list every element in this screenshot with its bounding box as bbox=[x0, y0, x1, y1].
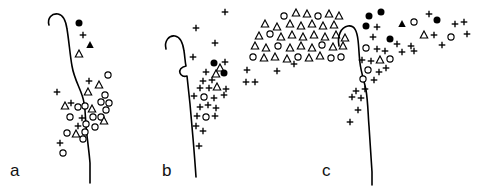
marker-plus bbox=[212, 113, 219, 120]
marker-open-triangle bbox=[95, 81, 102, 88]
marker-open-triangle bbox=[260, 54, 267, 61]
marker-open-triangle bbox=[308, 20, 315, 27]
marker-plus bbox=[464, 31, 471, 38]
marker-plus bbox=[376, 69, 383, 76]
marker-open-circle bbox=[319, 42, 325, 48]
marker-filled-circle bbox=[387, 36, 394, 43]
marker-open-triangle bbox=[271, 53, 278, 60]
marker-open-triangle bbox=[84, 88, 91, 95]
marker-open-circle bbox=[92, 124, 98, 130]
marker-plus bbox=[197, 85, 204, 92]
marker-plus bbox=[382, 48, 389, 55]
marker-plus bbox=[374, 46, 381, 53]
marker-plus bbox=[353, 88, 360, 95]
marker-open-triangle bbox=[273, 23, 280, 30]
marker-open-circle bbox=[363, 45, 369, 51]
marker-open-circle bbox=[83, 121, 89, 127]
marker-open-circle bbox=[387, 56, 393, 62]
marker-open-circle bbox=[201, 94, 207, 100]
marker-open-triangle bbox=[321, 33, 328, 40]
marker-open-circle bbox=[250, 54, 256, 60]
marker-plus bbox=[196, 143, 203, 150]
marker-plus bbox=[362, 86, 369, 93]
marker-plus bbox=[431, 32, 438, 39]
marker-filled-triangle bbox=[86, 41, 93, 48]
marker-plus bbox=[211, 95, 218, 102]
marker-plus bbox=[371, 77, 378, 84]
marker-open-triangle bbox=[262, 44, 269, 51]
panel-label-a: a bbox=[10, 161, 20, 180]
marker-open-triangle bbox=[286, 44, 293, 51]
marker-open-circle bbox=[64, 130, 70, 136]
marker-open-circle bbox=[82, 129, 88, 135]
marker-open-circle bbox=[75, 104, 81, 110]
marker-open-triangle bbox=[213, 83, 220, 90]
marker-open-circle bbox=[80, 136, 86, 142]
marker-open-triangle bbox=[319, 22, 326, 29]
marker-open-circle bbox=[102, 92, 108, 98]
marker-plus bbox=[222, 59, 229, 66]
scatter-points-a bbox=[54, 20, 112, 157]
marker-plus bbox=[394, 41, 401, 48]
panel-b: b bbox=[162, 9, 349, 180]
marker-open-triangle bbox=[420, 31, 427, 38]
marker-plus bbox=[209, 77, 216, 84]
marker-open-triangle bbox=[299, 33, 306, 40]
marker-plus bbox=[206, 85, 213, 92]
marker-open-circle bbox=[82, 103, 88, 109]
marker-plus bbox=[274, 68, 281, 75]
marker-plus bbox=[213, 105, 220, 112]
marker-open-triangle bbox=[376, 56, 383, 63]
scatter-points-c bbox=[347, 9, 471, 126]
marker-plus bbox=[191, 93, 198, 100]
marker-plus bbox=[355, 107, 362, 114]
marker-open-triangle bbox=[61, 102, 68, 109]
marker-filled-circle bbox=[76, 20, 83, 27]
marker-open-triangle bbox=[308, 44, 315, 51]
marker-plus bbox=[244, 67, 251, 74]
marker-plus bbox=[79, 115, 86, 122]
scatter-points-b bbox=[190, 9, 349, 150]
marker-plus bbox=[194, 113, 201, 120]
marker-open-circle bbox=[203, 114, 209, 120]
marker-plus bbox=[68, 100, 75, 107]
marker-plus bbox=[452, 21, 459, 28]
marker-open-triangle bbox=[310, 31, 317, 38]
marker-open-triangle bbox=[292, 9, 299, 16]
marker-open-circle bbox=[365, 67, 371, 73]
marker-plus bbox=[439, 42, 446, 49]
marker-open-triangle bbox=[303, 10, 310, 17]
marker-filled-circle bbox=[221, 70, 228, 77]
marker-plus bbox=[368, 58, 375, 65]
panel-a: a bbox=[10, 14, 112, 183]
marker-plus bbox=[75, 123, 82, 130]
panel-label-b: b bbox=[162, 161, 171, 180]
marker-plus bbox=[370, 34, 377, 41]
marker-open-triangle bbox=[277, 33, 284, 40]
marker-plus bbox=[252, 79, 259, 86]
marker-open-circle bbox=[360, 76, 366, 82]
marker-plus bbox=[197, 104, 204, 111]
marker-plus bbox=[349, 94, 356, 101]
marker-plus bbox=[223, 86, 230, 93]
marker-open-circle bbox=[338, 54, 344, 60]
marker-open-triangle bbox=[339, 42, 346, 49]
marker-open-circle bbox=[315, 13, 321, 19]
marker-open-triangle bbox=[297, 22, 304, 29]
marker-open-circle bbox=[267, 31, 273, 37]
marker-plus bbox=[291, 61, 298, 68]
marker-open-triangle bbox=[305, 54, 312, 61]
marker-open-circle bbox=[106, 100, 112, 106]
marker-plus bbox=[461, 19, 468, 26]
marker-plus bbox=[80, 32, 87, 39]
marker-open-triangle bbox=[330, 21, 337, 28]
marker-open-circle bbox=[411, 19, 417, 25]
marker-open-triangle bbox=[297, 42, 304, 49]
marker-filled-triangle bbox=[398, 20, 405, 27]
marker-plus bbox=[190, 54, 197, 61]
marker-open-triangle bbox=[329, 43, 336, 50]
marker-plus bbox=[200, 128, 207, 135]
marker-plus bbox=[86, 78, 93, 85]
marker-plus bbox=[399, 49, 406, 56]
marker-open-triangle bbox=[283, 55, 290, 62]
